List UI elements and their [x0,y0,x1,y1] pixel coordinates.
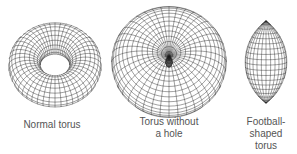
label-line: a hole [124,128,214,140]
label-line: shaped [236,128,296,140]
football-torus-wireframe [245,21,287,103]
label-line: torus [236,140,296,152]
normal-torus-wireframe [9,23,102,108]
label-football-torus: Football- shaped torus [236,116,296,152]
torus-without-hole-wireframe [112,7,227,118]
torus-diagram: Normal torus Torus without a hole Footba… [0,0,297,154]
label-line: Torus without [124,116,214,128]
label-line: Normal torus [12,119,92,131]
label-normal-torus: Normal torus [12,119,92,131]
label-torus-without-hole: Torus without a hole [124,116,214,140]
label-line: Football- [236,116,296,128]
